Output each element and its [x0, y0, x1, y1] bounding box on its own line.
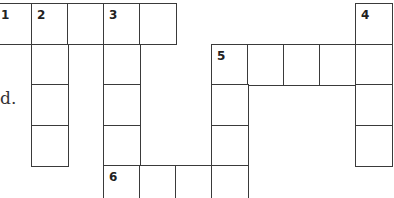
clue-number: 6: [109, 170, 117, 184]
crossword-cell[interactable]: [211, 84, 249, 126]
crossword-cell[interactable]: 1: [0, 3, 33, 45]
crossword-cell[interactable]: [283, 44, 321, 86]
crossword-cell[interactable]: [211, 125, 249, 167]
crossword-cell[interactable]: [31, 125, 69, 167]
crossword-cell[interactable]: 6: [103, 165, 141, 198]
clue-number: 4: [361, 8, 369, 22]
crossword-cell[interactable]: 2: [31, 3, 69, 45]
crossword-cell[interactable]: [139, 165, 177, 198]
crossword-cell[interactable]: 3: [103, 3, 141, 45]
crossword-cell[interactable]: [31, 44, 69, 86]
clue-number: 5: [217, 49, 225, 63]
crossword-cell[interactable]: 4: [355, 3, 393, 45]
clue-number: 2: [37, 8, 45, 22]
crossword-cell[interactable]: [355, 44, 393, 86]
crossword-cell[interactable]: [247, 44, 285, 86]
crossword-cell[interactable]: [355, 84, 393, 126]
crossword-cell[interactable]: 5: [211, 44, 249, 86]
crossword-cell[interactable]: [103, 84, 141, 126]
clue-text-fragment: d.: [0, 88, 16, 108]
clue-number: 1: [1, 8, 9, 22]
crossword-cell[interactable]: [139, 3, 177, 45]
crossword-cell[interactable]: [175, 165, 213, 198]
crossword-cell[interactable]: [355, 125, 393, 167]
crossword-cell[interactable]: [103, 44, 141, 86]
clue-number: 3: [109, 8, 117, 22]
crossword-cell[interactable]: [103, 125, 141, 167]
crossword-cell[interactable]: [31, 84, 69, 126]
crossword-cell[interactable]: [319, 44, 357, 86]
crossword-cell[interactable]: [211, 165, 249, 198]
crossword-cell[interactable]: [67, 3, 105, 45]
